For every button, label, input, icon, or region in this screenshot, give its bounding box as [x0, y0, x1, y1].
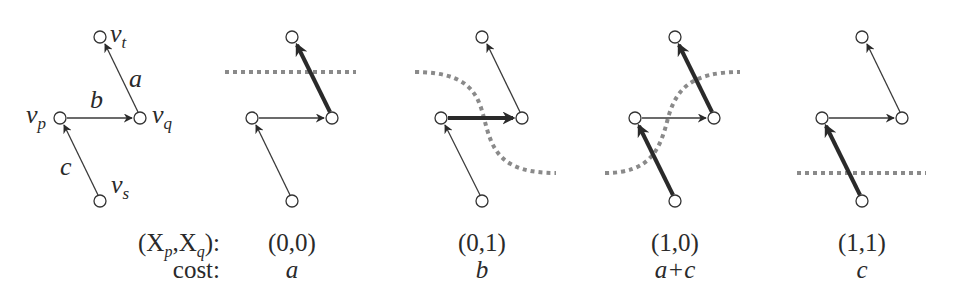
assignment-00: (0,0) — [232, 230, 352, 255]
assignment-01: (0,1) — [422, 230, 542, 255]
edge-label-c: c — [60, 152, 72, 181]
cost-01: b — [422, 257, 542, 282]
node-vq — [134, 112, 146, 124]
assignment-11: (1,1) — [802, 230, 922, 255]
panel-cut-01 — [415, 31, 556, 207]
cost-11: c — [802, 257, 922, 282]
node-vt — [476, 31, 488, 43]
node-vs — [856, 195, 868, 207]
cut-line — [605, 72, 740, 173]
edge-c — [445, 125, 480, 195]
panel-graph-labeled: vt vp vq vs a b c — [26, 19, 173, 207]
edge-label-b: b — [90, 85, 103, 114]
graph-cut-diagram: vt vp vq vs a b c — [0, 0, 955, 230]
node-vs — [669, 195, 681, 207]
panel-cut-11 — [797, 31, 926, 207]
panel-cut-10 — [605, 31, 740, 207]
edge-label-a: a — [129, 64, 142, 93]
node-label-vp: vp — [26, 100, 46, 133]
edge-a — [867, 44, 900, 112]
cost-header: cost: — [20, 257, 220, 282]
node-vs — [94, 195, 106, 207]
node-label-vt: vt — [110, 19, 128, 52]
edge-c — [256, 125, 290, 195]
node-vp — [629, 112, 641, 124]
node-vp — [246, 112, 258, 124]
edge-c-cut — [826, 126, 860, 195]
cost-00: a — [232, 257, 352, 282]
node-vt — [94, 31, 106, 43]
node-label-vs: vs — [111, 170, 130, 203]
node-vp — [816, 112, 828, 124]
node-vq — [326, 112, 338, 124]
edge-a — [487, 44, 520, 112]
node-vt — [856, 31, 868, 43]
assignment-10: (1,0) — [615, 230, 735, 255]
node-vq — [708, 112, 720, 124]
node-vt — [286, 31, 298, 43]
node-vs — [286, 195, 298, 207]
panel-cut-00 — [225, 31, 356, 207]
edge-a-cut — [297, 45, 330, 112]
node-vq — [896, 112, 908, 124]
edge-a-cut — [679, 45, 712, 112]
node-vp — [54, 112, 66, 124]
cost-10: a+c — [615, 257, 735, 282]
edge-c-cut — [639, 126, 673, 195]
node-vq — [516, 112, 528, 124]
node-vt — [669, 31, 681, 43]
node-vs — [476, 195, 488, 207]
node-vp — [435, 112, 447, 124]
node-label-vq: vq — [152, 100, 173, 133]
